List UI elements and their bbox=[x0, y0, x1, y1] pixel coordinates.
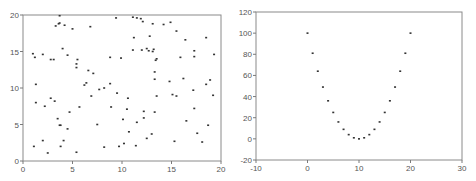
data-point bbox=[201, 141, 203, 143]
data-point bbox=[83, 84, 85, 86]
data-point bbox=[132, 49, 134, 51]
data-point bbox=[348, 134, 350, 136]
plot-frame bbox=[23, 15, 221, 161]
data-point bbox=[50, 59, 52, 61]
data-point bbox=[92, 73, 94, 75]
x-tick-label: 5 bbox=[70, 165, 75, 174]
data-point bbox=[127, 97, 129, 99]
data-points bbox=[32, 15, 215, 154]
data-point bbox=[90, 95, 92, 97]
data-point bbox=[128, 131, 130, 133]
data-point bbox=[192, 89, 194, 91]
data-point bbox=[171, 94, 173, 96]
data-point bbox=[120, 57, 122, 59]
scatter-chart-random: 05101520 05101520 bbox=[0, 0, 238, 181]
data-point bbox=[196, 132, 198, 134]
data-point bbox=[109, 57, 111, 59]
data-point bbox=[193, 56, 195, 58]
data-point bbox=[141, 49, 143, 51]
data-point bbox=[78, 106, 80, 108]
data-point bbox=[64, 24, 66, 26]
data-point bbox=[148, 50, 150, 52]
data-point bbox=[72, 28, 74, 30]
data-point bbox=[327, 100, 329, 102]
data-point bbox=[53, 59, 55, 61]
data-point bbox=[103, 87, 105, 89]
data-point bbox=[149, 35, 151, 37]
data-point bbox=[60, 146, 62, 148]
data-point bbox=[170, 22, 172, 24]
data-point bbox=[155, 59, 157, 61]
data-point bbox=[154, 71, 156, 73]
data-point bbox=[140, 18, 142, 20]
data-point bbox=[343, 129, 345, 131]
data-point bbox=[33, 146, 35, 148]
x-tick-label: -10 bbox=[250, 164, 262, 173]
data-point bbox=[67, 128, 69, 130]
y-tick-label: 20 bbox=[10, 11, 19, 20]
data-point bbox=[85, 82, 87, 84]
data-point bbox=[410, 32, 412, 34]
data-point bbox=[185, 120, 187, 122]
data-point bbox=[317, 70, 319, 72]
data-point bbox=[379, 121, 381, 123]
data-point bbox=[89, 26, 91, 28]
data-point bbox=[389, 100, 391, 102]
data-point bbox=[98, 89, 100, 91]
y-tick-label: 120 bbox=[239, 8, 253, 17]
data-point bbox=[152, 51, 154, 53]
data-point bbox=[60, 124, 62, 126]
data-point bbox=[32, 53, 34, 55]
data-point bbox=[152, 23, 154, 25]
data-point bbox=[69, 111, 71, 113]
data-point bbox=[193, 108, 195, 110]
data-point bbox=[146, 48, 148, 50]
data-point bbox=[399, 70, 401, 72]
data-point bbox=[50, 97, 52, 99]
data-point bbox=[103, 146, 105, 148]
x-tick-label: 20 bbox=[406, 164, 415, 173]
data-point bbox=[373, 129, 375, 131]
data-point bbox=[169, 81, 171, 83]
data-point bbox=[353, 137, 355, 139]
data-point bbox=[205, 37, 207, 39]
y-tick-label: 5 bbox=[15, 121, 20, 130]
data-point bbox=[142, 21, 144, 23]
data-point bbox=[42, 140, 44, 142]
y-tick-label: 80 bbox=[243, 50, 252, 59]
x-tick-label: 30 bbox=[458, 164, 467, 173]
y-axis-ticks: -20020406080100120 bbox=[239, 8, 256, 165]
data-point bbox=[307, 32, 309, 34]
data-point bbox=[368, 134, 370, 136]
data-point bbox=[54, 100, 56, 102]
y-axis-ticks: 05101520 bbox=[10, 11, 23, 166]
data-point bbox=[44, 105, 46, 107]
data-point bbox=[154, 111, 156, 113]
x-axis-ticks: -100102030 bbox=[250, 160, 467, 173]
x-tick-label: 0 bbox=[21, 165, 26, 174]
data-point bbox=[76, 59, 78, 61]
data-point bbox=[212, 95, 214, 97]
y-tick-label: 100 bbox=[239, 29, 253, 38]
data-point bbox=[96, 124, 98, 126]
data-point bbox=[75, 67, 77, 69]
data-point bbox=[110, 106, 112, 108]
data-point bbox=[63, 140, 65, 142]
data-point bbox=[143, 111, 145, 113]
data-point bbox=[175, 95, 177, 97]
data-point bbox=[62, 48, 64, 50]
data-point bbox=[115, 17, 117, 19]
y-tick-label: 10 bbox=[10, 84, 19, 93]
data-point bbox=[57, 118, 59, 120]
data-point bbox=[404, 52, 406, 54]
data-point bbox=[126, 108, 128, 110]
data-point bbox=[358, 138, 360, 140]
data-point bbox=[156, 95, 158, 97]
data-point bbox=[42, 54, 44, 56]
y-tick-label: 0 bbox=[15, 157, 20, 166]
data-point bbox=[55, 25, 57, 27]
data-point bbox=[332, 112, 334, 114]
data-point bbox=[193, 50, 195, 52]
data-point bbox=[384, 112, 386, 114]
data-point bbox=[179, 57, 181, 59]
